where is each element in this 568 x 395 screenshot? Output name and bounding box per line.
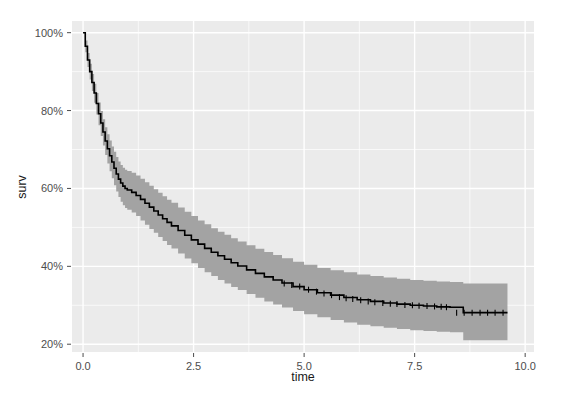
- y-tick-label: 80%: [41, 105, 63, 117]
- x-tick-label: 2.5: [186, 360, 201, 372]
- x-tick-label: 10.0: [514, 360, 535, 372]
- survival-chart: 0.02.55.07.510.0 time 20%40%60%80%100% s…: [0, 0, 568, 395]
- y-tick-label: 100%: [35, 27, 63, 39]
- x-tick-label: 0.0: [75, 360, 90, 372]
- x-tick-label: 7.5: [407, 360, 422, 372]
- y-axis-title: surv: [15, 174, 29, 198]
- x-axis-title: time: [291, 370, 315, 384]
- chart-canvas: 0.02.55.07.510.0 time 20%40%60%80%100% s…: [0, 0, 568, 395]
- y-tick-label: 60%: [41, 182, 63, 194]
- y-tick-label: 40%: [41, 260, 63, 272]
- y-tick-label: 20%: [41, 338, 63, 350]
